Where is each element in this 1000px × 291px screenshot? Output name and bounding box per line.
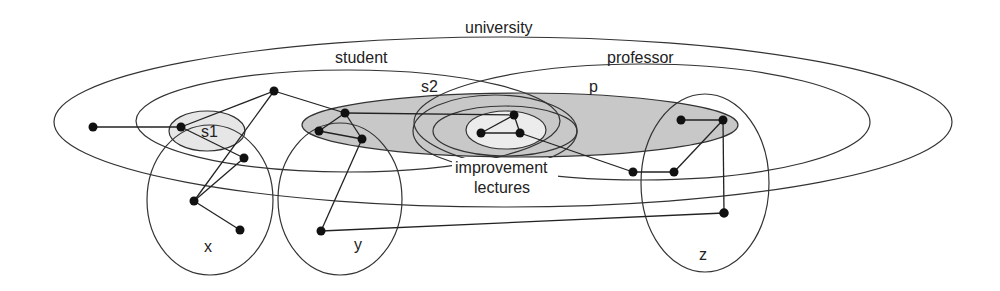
diagram-canvas: university student professor s2 p s1 imp…: [0, 0, 1000, 291]
node[interactable]: [270, 87, 279, 96]
label-lectures: lectures: [474, 179, 530, 196]
label-professor: professor: [607, 49, 674, 66]
label-student: student: [335, 49, 388, 66]
node[interactable]: [236, 226, 245, 235]
hypergraph-diagram: university student professor s2 p s1 imp…: [0, 0, 1000, 291]
label-s1: s1: [201, 123, 218, 140]
node[interactable]: [670, 168, 679, 177]
node[interactable]: [341, 109, 350, 118]
node[interactable]: [510, 111, 519, 120]
label-s2: s2: [421, 78, 438, 95]
label-z: z: [699, 246, 707, 263]
node[interactable]: [190, 197, 199, 206]
node[interactable]: [719, 116, 728, 125]
label-improvement: improvement: [455, 159, 548, 176]
node[interactable]: [240, 154, 249, 163]
node[interactable]: [317, 227, 326, 236]
label-x: x: [204, 238, 212, 255]
node[interactable]: [720, 209, 728, 217]
node[interactable]: [358, 135, 367, 144]
node[interactable]: [315, 127, 324, 136]
node[interactable]: [477, 129, 486, 138]
node[interactable]: [516, 129, 525, 138]
node[interactable]: [629, 168, 638, 177]
node[interactable]: [89, 123, 98, 132]
label-y: y: [354, 236, 362, 253]
node[interactable]: [177, 123, 186, 132]
label-p: p: [589, 78, 598, 95]
label-university: university: [465, 19, 533, 36]
node[interactable]: [677, 116, 686, 125]
